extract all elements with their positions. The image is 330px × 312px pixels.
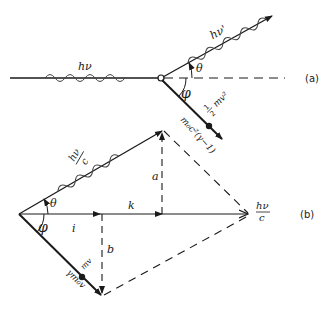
incident-photon-label: hν	[78, 60, 92, 73]
panel-b-tag: (b)	[300, 209, 314, 220]
panel-a: hν hν' θ φ 1 2 mv² m₀c²(γ−1) (a)	[10, 16, 319, 156]
panel-b: hν c i k hν c mv γm₀v θ φ a b	[19, 131, 314, 295]
mv-label: mv	[79, 256, 94, 271]
segment-k-label: k	[128, 199, 135, 212]
incident-momentum-den: c	[259, 212, 265, 223]
segment-i-label: i	[72, 222, 76, 235]
ke-denominator: 2	[209, 109, 218, 118]
theta-label-b: θ	[50, 197, 57, 210]
scattered-momentum-arrow	[19, 131, 162, 214]
relativistic-ke-label: m₀c²(γ−1)	[179, 115, 218, 156]
incident-momentum-num: hν	[256, 200, 269, 211]
theta-arc	[189, 63, 192, 78]
panel-a-tag: (a)	[305, 73, 319, 84]
parallelogram-lower-dashed	[104, 216, 248, 295]
ke-mv2-label: mv²	[211, 90, 231, 109]
electron-dot	[206, 123, 212, 129]
compton-diagram: hν hν' θ φ 1 2 mv² m₀c²(γ−1) (a)	[0, 0, 330, 312]
scattered-momentum-den: c	[78, 156, 91, 167]
theta-label-a: θ	[196, 62, 203, 75]
phi-label-a: φ	[181, 85, 191, 101]
segment-a-label: a	[152, 170, 159, 183]
scattered-photon-label: hν'	[208, 23, 229, 43]
segment-b-label: b	[107, 243, 114, 256]
phi-label-b: φ	[38, 219, 48, 235]
electron-momentum-arrow	[19, 214, 101, 295]
theta-arc-b	[44, 199, 48, 214]
